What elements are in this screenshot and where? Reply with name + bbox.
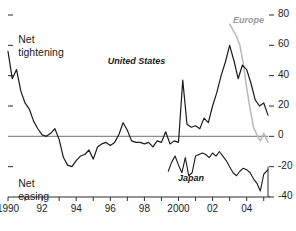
x-tick-label-1990: 1990	[0, 203, 23, 214]
annotation-net-easing-line1: Net	[18, 177, 49, 190]
series-label-europe: Europe	[233, 15, 264, 25]
y-tick-label-80: 80	[278, 8, 289, 19]
x-tick-label-2000: 2000	[163, 203, 193, 214]
y-tick-label--40: -40	[278, 190, 292, 201]
x-tick-label-1998: 98	[129, 203, 159, 214]
y-tick-label-40: 40	[278, 69, 289, 80]
x-tick-label-2004: 04	[232, 203, 262, 214]
series-line-japan	[168, 152, 268, 191]
annotation-net-easing-line2: easing	[18, 190, 49, 203]
y-tick-label--20: -20	[278, 160, 292, 171]
x-tick-label-2002: 02	[198, 203, 228, 214]
annotation-net-tightening: Net tightening	[18, 33, 64, 58]
series-label-united-states: United States	[108, 56, 166, 66]
x-tick-label-1992: 92	[27, 203, 57, 214]
annotation-net-tightening-line2: tightening	[18, 46, 64, 59]
series-line-europe	[230, 24, 268, 142]
line-chart: 806040200-20-40 19909294969820000204 Net…	[0, 0, 296, 231]
y-tick-label-0: 0	[278, 129, 284, 140]
y-axis-ticks	[269, 15, 274, 197]
x-tick-label-1996: 96	[95, 203, 125, 214]
y-axis-ticks-left	[8, 15, 13, 167]
series-label-japan: Japan	[178, 173, 204, 183]
y-tick-label-60: 60	[278, 38, 289, 49]
x-tick-label-1994: 94	[61, 203, 91, 214]
annotation-net-tightening-line1: Net	[18, 33, 64, 46]
y-tick-label-20: 20	[278, 99, 289, 110]
annotation-net-easing: Net easing	[18, 177, 49, 202]
